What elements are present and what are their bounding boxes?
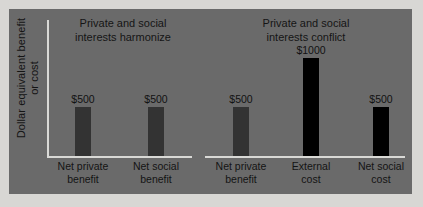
y-axis-label: Dollar equivalent benefit or cost <box>15 9 41 153</box>
x-axis-baseline-right <box>205 156 405 158</box>
bar-group-net-social-cost: $500 Net social cost <box>373 9 389 156</box>
bar-rect <box>148 107 164 156</box>
bar-value-label: $500 <box>53 94 113 105</box>
bar-rect <box>303 58 319 156</box>
bar-category-label: Net social cost <box>333 160 412 185</box>
group-title-harmonize: Private and social interests harmonize <box>53 17 193 44</box>
bar-group-net-private-benefit-conflict: $500 Net private benefit <box>233 9 249 156</box>
x-axis-baseline-left <box>47 156 192 158</box>
chart-figure: Dollar equivalent benefit or cost Privat… <box>9 9 412 194</box>
bar-value-label: $500 <box>211 94 271 105</box>
bar-rect <box>373 107 389 156</box>
bar-category-label: Net social benefit <box>108 160 204 185</box>
bar-group-net-private-benefit-harmonize: $500 Net private benefit <box>75 9 91 156</box>
y-axis-spine <box>47 20 49 157</box>
bar-group-external-cost: $1000 External cost <box>303 9 319 156</box>
bar-rect <box>233 107 249 156</box>
bar-value-label: $1000 <box>281 45 341 56</box>
bar-rect <box>75 107 91 156</box>
bar-group-net-social-benefit-harmonize: $500 Net social benefit <box>148 9 164 156</box>
bar-value-label: $500 <box>351 94 411 105</box>
bar-value-label: $500 <box>126 94 186 105</box>
